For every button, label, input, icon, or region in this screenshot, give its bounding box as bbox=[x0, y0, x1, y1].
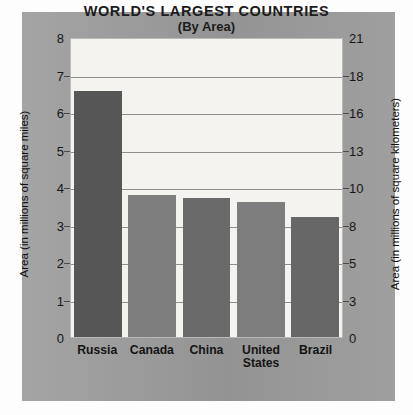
tick-mark bbox=[64, 151, 70, 152]
y-tick-left-2: 2 bbox=[38, 257, 64, 270]
bar-slot bbox=[291, 39, 339, 337]
y-tick-left-4: 4 bbox=[38, 182, 64, 195]
y-axis-left-title: Area (in millions of square miles) bbox=[18, 94, 30, 294]
tick-mark bbox=[64, 113, 70, 114]
y-axis-right-ticks: 21181613108530 bbox=[349, 38, 377, 338]
plot-area bbox=[70, 38, 343, 338]
x-axis-label: Russia bbox=[73, 344, 121, 370]
x-axis-label: Brazil bbox=[292, 344, 340, 370]
tick-mark bbox=[343, 151, 349, 152]
y-tick-left-5: 5 bbox=[38, 145, 64, 158]
bar-slot bbox=[74, 39, 122, 337]
y-tick-left-3: 3 bbox=[38, 220, 64, 233]
bar-slot bbox=[183, 39, 231, 337]
y-tick-right-10: 10 bbox=[349, 182, 375, 195]
bar-canada bbox=[128, 195, 176, 338]
tick-mark bbox=[64, 188, 70, 189]
tick-mark bbox=[343, 226, 349, 227]
tick-mark bbox=[64, 301, 70, 302]
tick-mark bbox=[343, 76, 349, 77]
y-tick-right-8: 8 bbox=[349, 220, 375, 233]
y-tick-left-7: 7 bbox=[38, 70, 64, 83]
y-tick-left-8: 8 bbox=[38, 32, 64, 45]
x-axis-label: China bbox=[182, 344, 230, 370]
tick-mark bbox=[343, 113, 349, 114]
tick-mark bbox=[64, 76, 70, 77]
y-axis-right-title: Area (in millions of square kilometers) bbox=[389, 84, 401, 304]
bar-brazil bbox=[291, 217, 339, 337]
y-tick-right-21: 21 bbox=[349, 32, 375, 45]
y-tick-right-0: 0 bbox=[349, 332, 375, 345]
bar-slot bbox=[237, 39, 285, 337]
chart-page: WORLD'S LARGEST COUNTRIES (By Area) 8765… bbox=[0, 0, 413, 415]
y-tick-right-5: 5 bbox=[349, 257, 375, 270]
bar-united-states bbox=[237, 202, 285, 337]
x-axis-label-line: United bbox=[237, 344, 285, 357]
x-axis-label-line: China bbox=[182, 344, 230, 357]
y-tick-right-3: 3 bbox=[349, 295, 375, 308]
x-axis-label-line: Canada bbox=[128, 344, 176, 357]
y-tick-right-13: 13 bbox=[349, 145, 375, 158]
tick-mark bbox=[343, 188, 349, 189]
tick-mark bbox=[343, 301, 349, 302]
x-axis-label: Canada bbox=[128, 344, 176, 370]
x-axis-labels: RussiaCanadaChinaUnitedStatesBrazil bbox=[70, 344, 343, 370]
tick-mark bbox=[64, 226, 70, 227]
y-tick-right-18: 18 bbox=[349, 70, 375, 83]
y-tick-left-0: 0 bbox=[38, 332, 64, 345]
bar-series bbox=[71, 39, 342, 337]
y-tick-left-6: 6 bbox=[38, 107, 64, 120]
y-tick-right-16: 16 bbox=[349, 107, 375, 120]
y-tick-left-1: 1 bbox=[38, 295, 64, 308]
x-axis-label-line: States bbox=[237, 357, 285, 370]
bar-china bbox=[183, 198, 231, 337]
tick-mark bbox=[343, 263, 349, 264]
x-axis-label: UnitedStates bbox=[237, 344, 285, 370]
y-axis-left-ticks: 876543210 bbox=[36, 38, 64, 338]
x-axis-label-line: Brazil bbox=[292, 344, 340, 357]
bar-russia bbox=[74, 91, 122, 337]
x-axis-label-line: Russia bbox=[73, 344, 121, 357]
bar-slot bbox=[128, 39, 176, 337]
tick-mark bbox=[64, 263, 70, 264]
